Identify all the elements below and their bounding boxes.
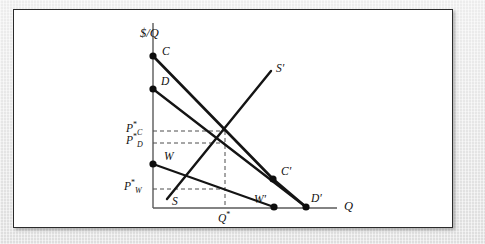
price-tick-label-pd: P*D bbox=[126, 135, 143, 147]
point-w bbox=[149, 160, 156, 167]
point-label-d: D bbox=[161, 76, 169, 88]
price-tick-pw-base: P bbox=[124, 180, 131, 192]
point-label-w: W bbox=[164, 151, 174, 163]
price-tick-pd-subscript: D bbox=[137, 140, 143, 149]
curve-label-supply: S bbox=[172, 196, 178, 208]
axes-group bbox=[153, 23, 337, 208]
supply-curve-s-sprime bbox=[167, 71, 271, 199]
quantity-tick-label-qstar: Q* bbox=[218, 213, 230, 225]
x-axis-label: Q bbox=[344, 200, 353, 213]
price-tick-pw-subscript: W bbox=[135, 186, 142, 195]
point-c bbox=[149, 52, 156, 59]
point-d bbox=[149, 85, 156, 92]
figure-page: $/Q Q C D W C′ W′ D′ S′ S P*C P*D P*W Q* bbox=[0, 0, 485, 244]
curve-label-supply-prime: S′ bbox=[276, 63, 284, 75]
point-label-wprime: W′ bbox=[254, 194, 266, 206]
point-label-c: C bbox=[162, 46, 170, 58]
price-tick-pc-base: P bbox=[126, 122, 133, 134]
y-axis-label: $/Q bbox=[140, 27, 159, 40]
point-cprime bbox=[269, 175, 276, 182]
figure-frame: $/Q Q C D W C′ W′ D′ S′ S P*C P*D P*W Q* bbox=[13, 9, 453, 228]
point-label-dprime: D′ bbox=[311, 193, 322, 205]
price-tick-label-pw: P*W bbox=[124, 181, 142, 193]
point-wprime bbox=[270, 203, 277, 210]
price-tick-pd-base: P bbox=[126, 134, 133, 146]
supply-demand-plot bbox=[14, 10, 454, 229]
point-dprime bbox=[302, 203, 309, 210]
quantity-tick-qstar-superscript: * bbox=[226, 210, 230, 219]
point-label-cprime: C′ bbox=[281, 166, 291, 178]
